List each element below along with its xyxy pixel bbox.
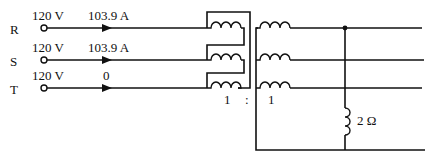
primary-coil-t [207, 82, 241, 88]
primary-coil-s [207, 54, 241, 60]
phase-label-r: R [10, 22, 19, 37]
voltage-label-s: 120 V [32, 40, 65, 55]
terminal-s [41, 57, 47, 63]
arrow-icon-t [102, 84, 112, 92]
phase-label-s: S [10, 54, 17, 69]
ratio-secondary: 1 [268, 92, 275, 107]
current-label-r: 103.9 A [88, 8, 130, 23]
primary-coil-r [207, 22, 241, 28]
ratio-separator: : [245, 92, 249, 107]
terminal-r [41, 25, 47, 31]
voltage-label-r: 120 V [32, 8, 65, 23]
arrow-icon-s [102, 56, 112, 64]
transformer-primary [207, 12, 250, 88]
current-label-s: 103.9 A [88, 40, 130, 55]
transformer-secondary [256, 22, 425, 150]
secondary-coil-s [256, 54, 290, 60]
ratio-primary: 1 [224, 92, 231, 107]
load-impedance-icon [345, 108, 350, 135]
arrow-icon-r [102, 24, 112, 32]
secondary-coil-r [256, 22, 290, 28]
current-label-t: 0 [103, 68, 110, 83]
secondary-coil-t [256, 82, 290, 88]
phase-label-t: T [10, 82, 18, 97]
voltage-label-t: 120 V [32, 68, 65, 83]
terminal-t [41, 85, 47, 91]
circuit-diagram: R S T 120 V 120 V 120 V 103.9 A 103.9 A … [0, 0, 438, 156]
load-label: 2 Ω [357, 113, 376, 128]
